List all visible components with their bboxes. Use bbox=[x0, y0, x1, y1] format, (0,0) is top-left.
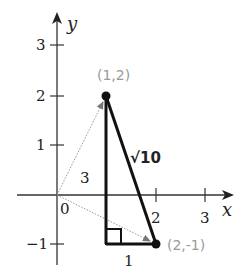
point-2-m1 bbox=[152, 240, 161, 249]
point-label-2-m1: (2,-1) bbox=[167, 237, 205, 253]
x-tick-label-2: 2 bbox=[151, 209, 161, 227]
vector-to-2-m1 bbox=[57, 195, 150, 241]
horizontal-side-label: 1 bbox=[124, 252, 134, 270]
position-vectors bbox=[57, 102, 150, 241]
y-tick-label-2: 2 bbox=[36, 87, 46, 105]
y-tick-label-3: 3 bbox=[36, 36, 46, 54]
right-angle-marker bbox=[106, 229, 121, 244]
x-tick-label-3: 3 bbox=[200, 209, 210, 227]
hypotenuse-label: √10 bbox=[130, 149, 161, 167]
point-label-1-2: (1,2) bbox=[97, 67, 130, 83]
origin-label: 0 bbox=[60, 200, 70, 218]
right-triangle bbox=[106, 96, 156, 244]
y-tick-label-1: 1 bbox=[36, 136, 46, 154]
coordinate-diagram: 2 3 3 2 1 −1 0 x y (1,2) (2,-1) 3 1 √10 bbox=[0, 0, 249, 280]
y-axis-label: y bbox=[66, 13, 78, 34]
point-1-2 bbox=[102, 92, 111, 101]
x-axis-label: x bbox=[222, 199, 232, 220]
vertical-side-label: 3 bbox=[80, 169, 90, 187]
axes bbox=[17, 14, 232, 265]
y-tick-label-minus1: −1 bbox=[26, 235, 48, 253]
hypotenuse bbox=[106, 96, 156, 244]
